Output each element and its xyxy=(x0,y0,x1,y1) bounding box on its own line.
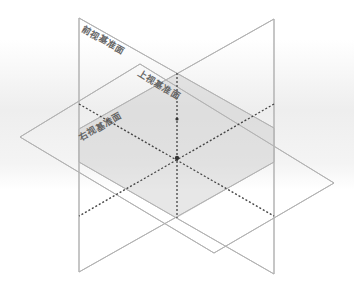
reference-planes-diagram: 前视基准面 上视基准面 右视基准面 xyxy=(0,0,354,291)
axis-marker-point xyxy=(175,117,178,120)
origin-point xyxy=(175,156,179,160)
